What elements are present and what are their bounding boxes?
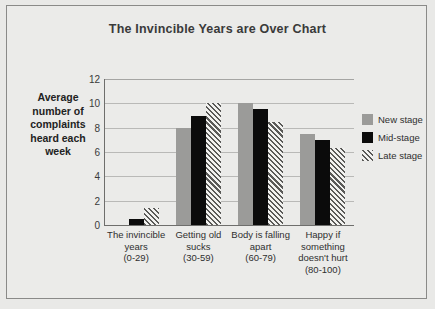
bar-group: [167, 79, 229, 225]
legend-label: New stage: [378, 114, 423, 125]
y-axis-tick-label: 10: [89, 98, 100, 109]
y-axis-title-line-3: complaints: [15, 118, 101, 132]
bar-group: [105, 79, 167, 225]
legend-item[interactable]: New stage: [362, 114, 423, 125]
x-axis-category-label-line: (80-100): [284, 264, 362, 276]
bar[interactable]: [253, 109, 268, 225]
chart-frame: The Invincible Years are Over Chart Aver…: [6, 5, 427, 299]
chart-title: The Invincible Years are Over Chart: [7, 22, 428, 36]
y-axis-title-line-4: heard each: [15, 132, 101, 146]
plot-area: 024681012The invincibleyears(0-29)Gettin…: [104, 79, 354, 226]
legend-swatch-icon: [362, 150, 373, 161]
y-axis-tick-label: 4: [94, 171, 100, 182]
y-axis-tick-label: 12: [89, 74, 100, 85]
chart-legend: New stageMid-stageLate stage: [362, 114, 423, 168]
legend-swatch-icon: [362, 132, 373, 143]
bar[interactable]: [238, 103, 253, 225]
bar[interactable]: [268, 122, 283, 225]
legend-label: Late stage: [378, 150, 422, 161]
legend-item[interactable]: Mid-stage: [362, 132, 423, 143]
bar[interactable]: [191, 116, 206, 226]
bar[interactable]: [129, 219, 144, 225]
legend-item[interactable]: Late stage: [362, 150, 423, 161]
bar[interactable]: [300, 134, 315, 225]
x-axis-category-label: Happy ifsomethingdoesn't hurt(80-100): [284, 229, 362, 275]
x-axis-category-label-line: doesn't hurt: [284, 252, 362, 264]
bar[interactable]: [206, 103, 221, 225]
x-axis-category-label-line: Happy if: [284, 229, 362, 241]
bar[interactable]: [315, 140, 330, 225]
bar-group: [292, 79, 354, 225]
bar[interactable]: [330, 148, 345, 225]
legend-label: Mid-stage: [378, 132, 420, 143]
bar-group: [230, 79, 292, 225]
y-axis-title-line-5: week: [15, 145, 101, 159]
bar[interactable]: [144, 208, 159, 225]
y-axis-tick-label: 8: [94, 122, 100, 133]
x-axis-category-label-line: something: [284, 241, 362, 253]
y-axis-tick-label: 2: [94, 195, 100, 206]
bar[interactable]: [176, 128, 191, 225]
legend-swatch-icon: [362, 114, 373, 125]
y-axis-tick-label: 6: [94, 147, 100, 158]
